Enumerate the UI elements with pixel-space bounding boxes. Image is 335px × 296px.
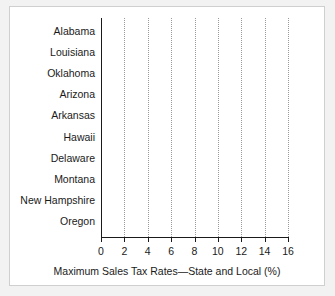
y-tick-label-arkansas: Arkansas <box>0 109 95 121</box>
x-axis-title: Maximum Sales Tax Rates—State and Local … <box>9 265 325 277</box>
x-tick-6 <box>171 237 172 242</box>
bar-oklahoma <box>101 65 223 81</box>
x-tick-16 <box>288 237 289 242</box>
y-tick-label-oklahoma: Oklahoma <box>0 67 95 79</box>
y-axis-category-labels: AlabamaLouisianaOklahomaArizonaArkansasH… <box>0 0 95 296</box>
bar-hawaii <box>101 129 148 145</box>
x-tick-label-16: 16 <box>273 245 303 257</box>
x-tick-0 <box>101 237 102 242</box>
x-tick-12 <box>241 237 242 242</box>
bar-arizona <box>101 86 220 102</box>
y-tick-label-arizona: Arizona <box>0 88 95 100</box>
x-tick-14 <box>265 237 266 242</box>
x-tick-4 <box>148 237 149 242</box>
bar-arkansas <box>101 107 216 123</box>
gridline-12 <box>241 18 242 237</box>
x-tick-10 <box>218 237 219 242</box>
gridline-14 <box>265 18 266 237</box>
plot-area <box>101 18 288 237</box>
x-tick-8 <box>195 237 196 242</box>
y-tick-label-louisiana: Louisiana <box>0 46 95 58</box>
y-tick-label-new-hampshire: New Hampshire <box>0 194 95 206</box>
y-tick-label-delaware: Delaware <box>0 152 95 164</box>
bar-louisiana <box>101 44 226 60</box>
gridline-16 <box>288 18 289 237</box>
x-tick-2 <box>124 237 125 242</box>
y-axis-line <box>101 18 102 238</box>
chart-figure: AlabamaLouisianaOklahomaArizonaArkansasH… <box>0 0 335 296</box>
bar-alabama <box>101 23 277 39</box>
y-tick-label-alabama: Alabama <box>0 25 95 37</box>
y-tick-label-montana: Montana <box>0 173 95 185</box>
y-tick-label-oregon: Oregon <box>0 215 95 227</box>
y-tick-label-hawaii: Hawaii <box>0 131 95 143</box>
